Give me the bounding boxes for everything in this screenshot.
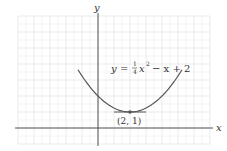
svg-text:4: 4 — [133, 68, 137, 75]
svg-text:− x + 2: − x + 2 — [152, 63, 190, 74]
svg-text:x: x — [139, 63, 145, 74]
svg-text:=: = — [120, 63, 128, 74]
equation-label: y = 1 4 x 2 − x + 2 — [110, 60, 190, 75]
svg-text:y: y — [110, 63, 117, 74]
vertex-label: (2, 1) — [117, 116, 141, 126]
y-axis-label: y — [93, 2, 100, 13]
svg-text:1: 1 — [133, 60, 137, 67]
vertex-point — [128, 110, 132, 114]
x-axis-label: x — [216, 122, 222, 133]
svg-text:2: 2 — [146, 60, 150, 67]
grid — [18, 16, 210, 144]
parabola-chart: x y (2, 1) y = 1 4 x 2 − x + 2 — [0, 0, 227, 151]
